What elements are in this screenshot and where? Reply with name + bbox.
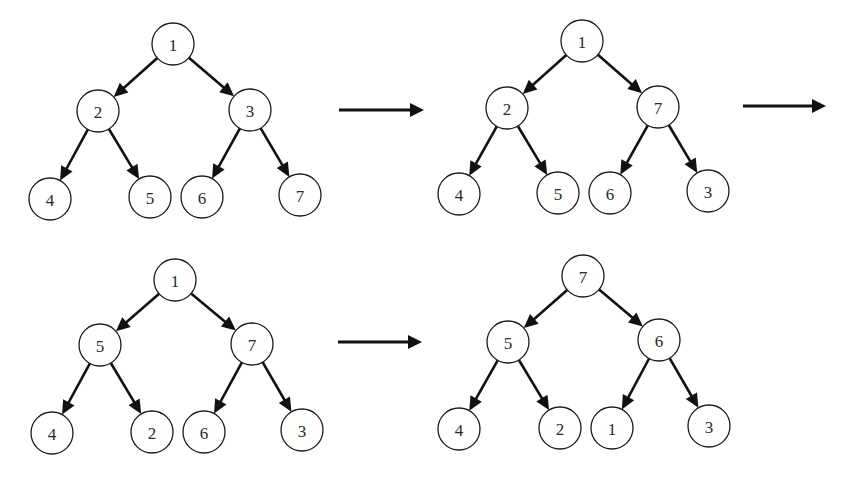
nodes-layer: 1234567127456315742637564213 bbox=[29, 20, 730, 454]
right-arrow-icon bbox=[812, 99, 826, 113]
heap-node: 6 bbox=[638, 319, 680, 361]
tree-edge-5-to-4 bbox=[469, 360, 497, 410]
right-arrow-icon bbox=[408, 335, 422, 349]
node-label: 3 bbox=[704, 183, 713, 202]
edge-line bbox=[518, 126, 541, 165]
node-label: 3 bbox=[246, 102, 255, 121]
heap-node: 1 bbox=[591, 407, 633, 449]
node-label: 7 bbox=[579, 268, 588, 287]
node-label: 7 bbox=[654, 99, 663, 118]
tree-edge-6-to-3 bbox=[670, 358, 699, 408]
tree-edge-5-to-4 bbox=[62, 363, 90, 414]
node-label: 2 bbox=[503, 100, 512, 119]
node-label: 4 bbox=[455, 186, 464, 205]
heap-node: 4 bbox=[29, 178, 71, 220]
heap-node: 5 bbox=[129, 176, 171, 218]
heap-node: 2 bbox=[77, 90, 119, 132]
node-label: 1 bbox=[171, 272, 180, 291]
heap-node: 3 bbox=[687, 170, 729, 212]
heap-tree-3-nodes: 1574263 bbox=[31, 259, 323, 454]
tree-edge-7-to-3 bbox=[263, 362, 292, 412]
edge-line bbox=[475, 126, 497, 165]
edge-line bbox=[261, 128, 284, 167]
tree-edge-3-to-6 bbox=[212, 128, 240, 178]
heap-node: 6 bbox=[181, 176, 223, 218]
tree-edge-1-to-7 bbox=[191, 293, 236, 330]
edge-line bbox=[220, 362, 242, 403]
node-label: 6 bbox=[655, 332, 664, 351]
step-arrow-1-to-2 bbox=[339, 103, 424, 117]
edge-line bbox=[263, 362, 286, 401]
tree-edge-5-to-2 bbox=[111, 363, 141, 414]
tree-edge-1-to-5 bbox=[116, 294, 159, 331]
edge-line bbox=[111, 363, 135, 404]
tree-edge-1-to-2 bbox=[523, 55, 567, 94]
node-label: 4 bbox=[48, 425, 57, 444]
edge-line bbox=[125, 294, 159, 324]
node-label: 5 bbox=[554, 185, 563, 204]
tree-edge-5-to-2 bbox=[519, 360, 549, 410]
step-arrow-3-to-4 bbox=[338, 335, 422, 349]
heap-tree-4-nodes: 7564213 bbox=[438, 255, 730, 450]
tree-edge-1-to-3 bbox=[189, 58, 234, 97]
heap-node: 5 bbox=[487, 321, 529, 363]
edge-line bbox=[628, 359, 650, 399]
tree-edge-6-to-1 bbox=[622, 359, 649, 410]
heap-node: 3 bbox=[281, 409, 323, 451]
node-label: 5 bbox=[146, 189, 155, 208]
edge-line bbox=[669, 125, 691, 163]
node-label: 1 bbox=[608, 420, 617, 439]
tree-edge-2-to-5 bbox=[109, 129, 139, 179]
edge-line bbox=[626, 125, 648, 164]
edge-line bbox=[532, 55, 567, 86]
edge-line bbox=[123, 58, 158, 89]
edge-line bbox=[475, 360, 498, 400]
tree-edge-2-to-4 bbox=[60, 129, 88, 180]
heap-node: 4 bbox=[31, 412, 73, 454]
node-label: 3 bbox=[298, 422, 307, 441]
heap-node: 1 bbox=[561, 20, 603, 62]
heap-node: 1 bbox=[154, 259, 196, 301]
node-label: 2 bbox=[556, 420, 565, 439]
edge-line bbox=[599, 290, 634, 319]
node-label: 7 bbox=[248, 336, 257, 355]
node-label: 6 bbox=[606, 185, 615, 204]
node-label: 2 bbox=[148, 424, 157, 443]
tree-edge-7-to-5 bbox=[524, 290, 567, 328]
step-arrows-layer bbox=[338, 99, 826, 349]
edge-line bbox=[598, 55, 633, 86]
node-label: 5 bbox=[504, 334, 513, 353]
right-arrow-icon bbox=[410, 103, 424, 117]
node-label: 2 bbox=[94, 103, 103, 122]
heap-node: 2 bbox=[539, 407, 581, 449]
tree-edge-2-to-5 bbox=[518, 126, 547, 175]
tree-edge-7-to-3 bbox=[669, 125, 698, 173]
edge-line bbox=[519, 360, 543, 400]
node-label: 7 bbox=[296, 187, 305, 206]
heap-node: 3 bbox=[229, 89, 271, 131]
heap-node: 5 bbox=[79, 324, 121, 366]
tree-edge-3-to-7 bbox=[261, 128, 290, 177]
node-label: 4 bbox=[46, 191, 55, 210]
heap-node: 6 bbox=[183, 411, 225, 453]
edge-line bbox=[533, 290, 567, 320]
step-arrow-2-to-3 bbox=[743, 99, 826, 113]
node-label: 1 bbox=[578, 33, 587, 52]
edge-line bbox=[218, 128, 240, 168]
tree-edge-1-to-2 bbox=[114, 58, 158, 97]
node-label: 5 bbox=[96, 337, 105, 356]
heap-node: 7 bbox=[231, 323, 273, 365]
node-label: 1 bbox=[169, 36, 178, 55]
tree-edge-7-to-6 bbox=[599, 290, 643, 327]
heap-tree-2-nodes: 1274563 bbox=[438, 20, 729, 215]
edge-line bbox=[191, 293, 227, 323]
edge-line bbox=[109, 129, 133, 169]
heap-node: 2 bbox=[486, 87, 528, 129]
edge-line bbox=[189, 58, 225, 89]
edge-line bbox=[66, 129, 88, 170]
tree-edge-7-to-6 bbox=[214, 362, 242, 413]
node-label: 4 bbox=[455, 421, 464, 440]
tree-edge-2-to-4 bbox=[469, 126, 497, 175]
node-label: 6 bbox=[200, 424, 209, 443]
heap-node: 3 bbox=[688, 405, 730, 447]
